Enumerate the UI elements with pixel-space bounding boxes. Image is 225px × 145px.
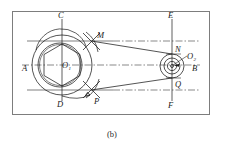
figure-border bbox=[13, 12, 210, 115]
belt-line-upper-MN bbox=[91, 41, 172, 54]
label-A: A bbox=[21, 63, 28, 73]
construction-arc-upper-left bbox=[36, 29, 86, 50]
label-O1: O 1 bbox=[62, 60, 71, 71]
label-F: F bbox=[167, 100, 174, 110]
svg-text:1: 1 bbox=[69, 66, 72, 71]
label-M: M bbox=[96, 30, 105, 40]
figure-caption: (b) bbox=[107, 129, 117, 139]
label-O2: O 2 bbox=[187, 51, 197, 62]
label-B: B bbox=[192, 63, 197, 73]
belt-line-lower-PQ bbox=[91, 78, 172, 90]
label-P: P bbox=[93, 96, 99, 106]
label-E: E bbox=[167, 10, 174, 20]
label-N: N bbox=[174, 44, 182, 54]
svg-text:O: O bbox=[187, 51, 193, 61]
construction-diagram: C D A B E F M N P Q O 1 O 2 (b) bbox=[0, 0, 225, 145]
figure-root: C D A B E F M N P Q O 1 O 2 (b) bbox=[0, 0, 225, 145]
svg-text:2: 2 bbox=[194, 57, 197, 62]
label-D: D bbox=[56, 99, 64, 109]
label-Q: Q bbox=[175, 79, 181, 89]
label-C: C bbox=[58, 10, 64, 20]
svg-text:O: O bbox=[62, 60, 68, 70]
